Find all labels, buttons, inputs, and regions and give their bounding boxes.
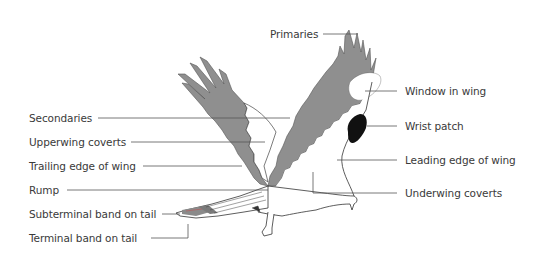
label-underwing-coverts: Underwing coverts: [405, 187, 502, 199]
label-rump: Rump: [29, 184, 59, 196]
label-upperwing-coverts: Upperwing coverts: [29, 136, 126, 148]
near-wing: [268, 30, 381, 198]
label-subterminal-band: Subterminal band on tail: [29, 208, 156, 220]
label-leading-edge: Leading edge of wing: [405, 154, 516, 166]
label-primaries: Primaries: [270, 28, 318, 40]
label-window-in-wing: Window in wing: [405, 85, 486, 97]
label-wrist-patch: Wrist patch: [405, 120, 464, 132]
far-wing: [178, 57, 276, 186]
label-trailing-edge: Trailing edge of wing: [29, 160, 136, 172]
bird-anatomy-diagram: Secondaries Upperwing coverts Trailing e…: [0, 0, 538, 258]
bird-body: [176, 186, 357, 236]
label-terminal-band: Terminal band on tail: [29, 232, 137, 244]
label-secondaries: Secondaries: [29, 112, 92, 124]
